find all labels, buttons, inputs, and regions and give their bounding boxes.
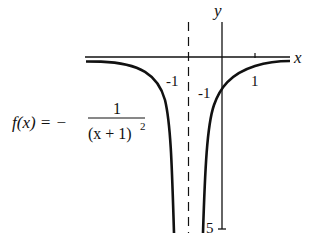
function-graph: x y -1 1 -1 5 f(x) = − 1 (x + 1) 2 (0, 0, 325, 233)
curve-left-branch (86, 62, 174, 234)
y-tick-label-neg5: 5 (206, 220, 214, 233)
formula-lhs: f(x) = − (12, 113, 67, 132)
y-tick-label-neg1: -1 (198, 85, 211, 101)
x-tick-label-neg1: -1 (166, 73, 179, 89)
function-formula: f(x) = − 1 (x + 1) 2 (12, 100, 146, 143)
formula-exponent: 2 (140, 120, 146, 132)
y-axis-label: y (212, 1, 222, 20)
x-tick-label-1: 1 (251, 73, 259, 89)
curve-right-branch (203, 61, 290, 233)
formula-numerator: 1 (113, 100, 121, 117)
x-axis-label: x (293, 48, 302, 67)
formula-denominator: (x + 1) (88, 125, 132, 143)
